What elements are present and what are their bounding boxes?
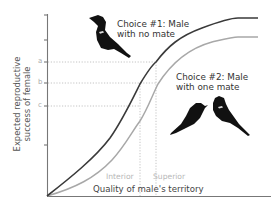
annotation-choice2: Choice #2: Male with one mate [176,72,248,92]
x-axis-label: Quality of male's territory [93,184,204,194]
axes [44,14,271,197]
annotation-choice2-line1: Choice #2: Male [176,72,248,82]
x-category-superior: Superior [153,172,185,181]
tick-label-c: c [38,101,42,109]
tick-label-a: a [38,57,42,65]
annotation-choice1-line1: Choice #1: Male [117,19,189,29]
annotation-choice2-line2: with one mate [176,82,248,92]
annotation-choice1-line2: with no mate [117,29,189,39]
reference-lines [48,62,156,196]
y-axis-label-line2: success of female [22,57,32,152]
tick-label-b: b [38,78,42,86]
y-axis-label: Expected reproductive success of female [12,57,32,152]
annotation-choice1: Choice #1: Male with no mate [117,19,189,39]
bird-pair-icon [170,96,250,136]
x-category-interior: Interior [106,172,134,181]
y-axis-label-line1: Expected reproductive [12,57,22,152]
